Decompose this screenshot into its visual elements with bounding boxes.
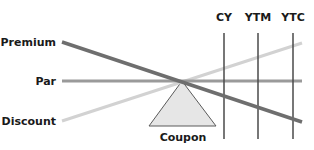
discount-label: Discount xyxy=(2,116,56,127)
par-label: Par xyxy=(35,76,56,87)
ytm-label: YTM xyxy=(245,12,271,23)
ytc-label: YTC xyxy=(281,12,305,23)
coupon-label: Coupon xyxy=(160,132,207,143)
cy-label: CY xyxy=(216,12,232,23)
premium-label: Premium xyxy=(1,37,56,48)
coupon-fulcrum-triangle xyxy=(149,81,216,126)
